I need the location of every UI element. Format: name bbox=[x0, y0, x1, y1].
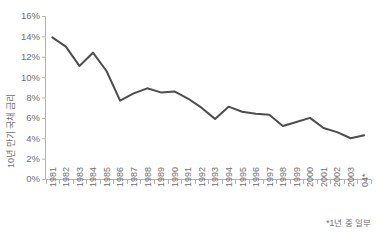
y-axis-tick-labels: 0%2%4%6%8%10%12%14%16% bbox=[21, 10, 41, 184]
y-tick-label: 2% bbox=[26, 153, 40, 164]
x-tick-label: 2001 bbox=[319, 167, 329, 187]
x-tick-label: 1981 bbox=[48, 167, 58, 187]
x-tick-label: 1991 bbox=[183, 167, 193, 187]
x-tick-label: 1998 bbox=[278, 167, 288, 187]
x-tick-label: 1990 bbox=[170, 167, 180, 187]
x-tick-label: 1982 bbox=[61, 167, 71, 187]
y-tick-label: 12% bbox=[21, 51, 41, 62]
footnote: *1년 중 일부 bbox=[326, 218, 371, 228]
x-tick-label: 1986 bbox=[115, 167, 125, 187]
y-axis-title: 10년 만기 국채 금리 bbox=[6, 94, 16, 168]
y-axis-title-group: 10년 만기 국채 금리 bbox=[6, 94, 16, 168]
y-axis-tick-marks bbox=[42, 17, 46, 180]
x-tick-label: 1995 bbox=[238, 167, 248, 187]
y-tick-label: 6% bbox=[26, 112, 40, 123]
x-tick-label: 1992 bbox=[197, 167, 207, 187]
y-tick-label: 8% bbox=[26, 92, 40, 103]
y-tick-label: 14% bbox=[21, 31, 41, 42]
y-tick-label: 0% bbox=[26, 173, 40, 184]
x-tick-label: 2000 bbox=[305, 167, 315, 187]
x-tick-label: 1999 bbox=[292, 167, 302, 187]
y-tick-label: 16% bbox=[21, 10, 41, 21]
x-tick-label: 1993 bbox=[210, 167, 220, 187]
x-tick-label: 1994 bbox=[224, 167, 234, 187]
x-tick-label: 1983 bbox=[75, 167, 85, 187]
chart-container: 10년 만기 국채 금리 0%2%4%6%8%10%12%14%16% 1981… bbox=[0, 0, 383, 232]
x-tick-label: 2003 bbox=[346, 167, 356, 187]
x-tick-label: 1996 bbox=[251, 167, 261, 187]
x-tick-label: 1997 bbox=[265, 167, 275, 187]
x-tick-label: 04* bbox=[360, 173, 370, 187]
x-tick-label: 1984 bbox=[88, 167, 98, 187]
x-tick-label: 1989 bbox=[156, 167, 166, 187]
y-tick-label: 4% bbox=[26, 133, 40, 144]
y-tick-label: 10% bbox=[21, 72, 41, 83]
x-tick-label: 1987 bbox=[129, 167, 139, 187]
x-tick-label: 1985 bbox=[102, 167, 112, 187]
x-tick-label: 1988 bbox=[143, 167, 153, 187]
x-tick-label: 2002 bbox=[332, 167, 342, 187]
line-chart: 10년 만기 국채 금리 0%2%4%6%8%10%12%14%16% 1981… bbox=[0, 0, 383, 232]
data-series-line bbox=[52, 37, 364, 138]
